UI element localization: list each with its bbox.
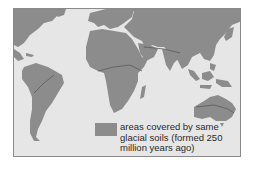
legend-swatch [95,123,117,136]
north-america [14,9,58,47]
madagascar [140,85,146,99]
south-america [22,63,64,141]
australia [194,95,236,121]
legend-label: areas covered by same glacial soils (for… [120,122,240,154]
africa [86,29,148,113]
legend: areas covered by same glacial soils (for… [95,122,240,154]
legend-label-line1: areas covered by same [120,122,240,133]
map-frame: areas covered by same glacial soils (for… [13,8,241,157]
legend-label-line3: million years ago) [120,143,240,154]
